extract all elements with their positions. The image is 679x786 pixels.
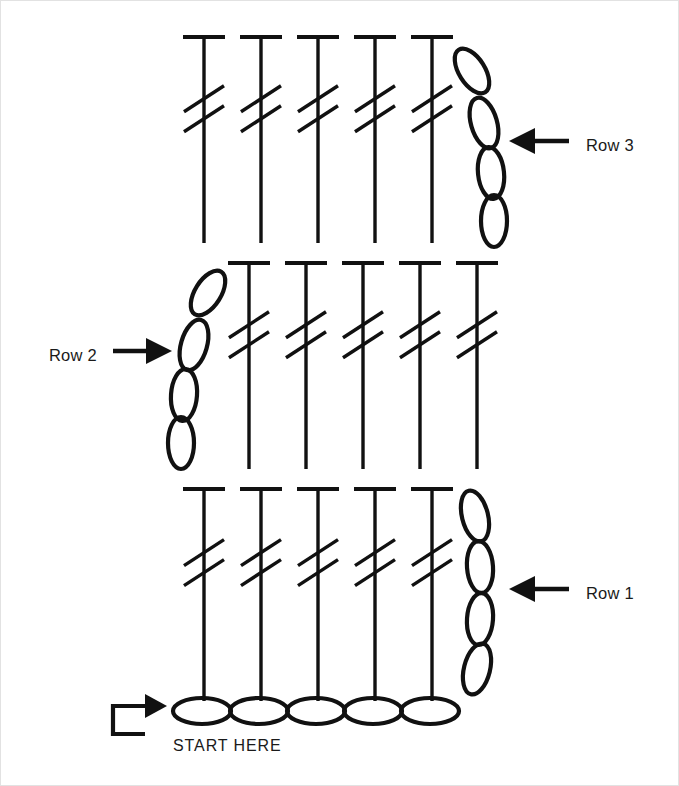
right-arrow-icon bbox=[146, 338, 172, 364]
start-here-label: START HERE bbox=[173, 737, 282, 754]
foundation-chain-oval bbox=[173, 698, 231, 724]
start-hook-shaft bbox=[113, 706, 145, 734]
foundation-chain-oval bbox=[344, 698, 402, 724]
row-3-stitches bbox=[183, 37, 453, 243]
chain-stitch-oval bbox=[169, 368, 199, 422]
crochet-chart-canvas: Row 3 Row 2 Row 1 START HERE bbox=[0, 0, 679, 786]
foundation-chain-oval bbox=[230, 698, 288, 724]
row-1-arrow bbox=[509, 576, 569, 602]
row-2-label: Row 2 bbox=[49, 346, 97, 364]
chain-stitch-oval bbox=[168, 417, 194, 469]
row-2-group: Row 2 bbox=[49, 263, 498, 469]
chain-stitch-oval bbox=[184, 265, 233, 321]
chain-stitch-oval bbox=[458, 641, 496, 698]
start-hook-arrow-icon bbox=[113, 694, 167, 734]
foundation-chain-oval bbox=[287, 698, 345, 724]
row-2-turning-chain bbox=[168, 265, 232, 469]
row-3-label: Row 3 bbox=[586, 136, 634, 154]
foundation-chain-oval bbox=[401, 698, 459, 724]
row-2-stitches bbox=[228, 263, 498, 469]
row-3-turning-chain bbox=[448, 43, 507, 247]
foundation-chain-ovals bbox=[173, 698, 459, 724]
row-1-label: Row 1 bbox=[586, 584, 634, 602]
chain-stitch-oval bbox=[456, 488, 494, 545]
foundation-chain-group: START HERE bbox=[113, 694, 459, 754]
chain-stitch-oval bbox=[464, 94, 503, 151]
row-1-turning-chain bbox=[456, 488, 496, 698]
left-arrow-icon bbox=[509, 576, 535, 602]
chain-stitch-oval bbox=[481, 195, 507, 247]
chain-stitch-oval bbox=[174, 316, 213, 373]
chain-stitch-oval bbox=[475, 146, 506, 200]
row-2-arrow bbox=[113, 338, 172, 364]
chain-stitch-oval bbox=[465, 592, 495, 646]
chain-stitch-oval bbox=[465, 540, 495, 594]
start-arrow-head-icon bbox=[145, 694, 167, 718]
chain-stitch-oval bbox=[448, 43, 497, 99]
row-1-stitches bbox=[183, 489, 453, 701]
row-3-group: Row 3 bbox=[183, 37, 634, 247]
crochet-stitch-diagram: Row 3 Row 2 Row 1 START HERE bbox=[1, 1, 679, 786]
left-arrow-icon bbox=[509, 128, 535, 154]
row-1-group: Row 1 bbox=[183, 488, 634, 701]
row-3-arrow bbox=[509, 128, 569, 154]
